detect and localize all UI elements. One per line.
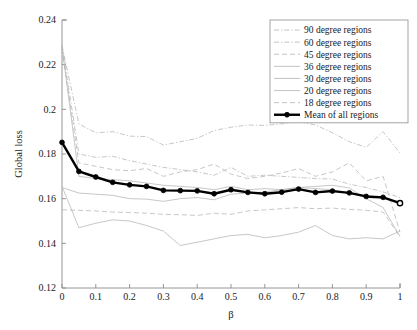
mean-data-point [347, 190, 352, 195]
mean-data-point [110, 180, 115, 185]
legend: 90 degree regions60 degree regions45 deg… [270, 20, 408, 123]
mean-data-point [313, 190, 318, 195]
mean-data-point [296, 187, 301, 192]
y-tick-label: 0.16 [39, 193, 57, 204]
mean-data-point [364, 194, 369, 199]
chart-figure: 0.120.140.160.180.20.220.2400.10.20.30.4… [0, 0, 417, 330]
legend-entry-label: 18 degree regions [304, 98, 372, 108]
y-tick-label: 0.2 [44, 104, 57, 115]
x-tick-label: 1 [398, 291, 403, 302]
mean-data-point [381, 195, 386, 200]
x-tick-label: 0.6 [259, 291, 272, 302]
x-tick-label: 0.9 [360, 291, 373, 302]
mean-data-point [397, 201, 402, 206]
x-tick-label: 0.7 [292, 291, 305, 302]
mean-data-point [195, 188, 200, 193]
mean-data-point [144, 184, 149, 189]
legend-sample-marker [285, 112, 290, 117]
mean-data-point [178, 188, 183, 193]
line-chart: 0.120.140.160.180.20.220.2400.10.20.30.4… [0, 0, 417, 330]
x-tick-label: 0.3 [157, 291, 170, 302]
mean-data-point [246, 190, 251, 195]
x-tick-label: 0.8 [326, 291, 339, 302]
x-tick-label: 0.1 [90, 291, 103, 302]
y-tick-label: 0.18 [39, 148, 57, 159]
legend-entry-label: 90 degree regions [304, 25, 372, 35]
mean-data-point [127, 182, 132, 187]
legend-entry-label: 20 degree regions [304, 86, 372, 96]
y-tick-label: 0.22 [39, 59, 57, 70]
legend-entry-label: 60 degree regions [304, 38, 372, 48]
mean-data-point [212, 191, 217, 196]
mean-data-point [77, 169, 82, 174]
x-axis-title: β [228, 309, 233, 320]
y-tick-label: 0.14 [39, 238, 57, 249]
mean-data-point [93, 175, 98, 180]
mean-data-point [279, 190, 284, 195]
mean-curve [60, 140, 403, 206]
x-tick-label: 0.5 [225, 291, 238, 302]
y-tick-label: 0.12 [39, 282, 57, 293]
legend-entry-label: 30 degree regions [304, 74, 372, 84]
y-tick-label: 0.24 [39, 14, 57, 25]
region-curve [62, 208, 400, 237]
mean-data-point [60, 140, 65, 145]
x-tick-label: 0.4 [191, 291, 204, 302]
mean-data-point [262, 191, 267, 196]
x-tick-label: 0.2 [123, 291, 136, 302]
legend-entry-label: 36 degree regions [304, 62, 372, 72]
legend-entry-label: 45 degree regions [304, 50, 372, 60]
x-tick-label: 0 [60, 291, 65, 302]
mean-data-point [161, 188, 166, 193]
mean-data-point [330, 189, 335, 194]
mean-data-point [229, 187, 234, 192]
y-axis-title: Global loss [13, 130, 24, 178]
legend-entry-label: Mean of all regions [304, 110, 378, 120]
